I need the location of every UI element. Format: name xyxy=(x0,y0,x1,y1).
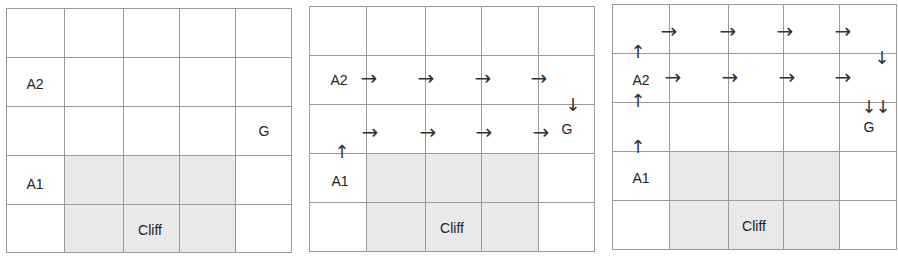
cliff-cell xyxy=(481,202,539,252)
cell xyxy=(309,6,367,56)
cell xyxy=(309,202,367,252)
cell xyxy=(64,106,124,156)
cell xyxy=(6,106,65,156)
cell xyxy=(839,200,897,250)
cell xyxy=(425,6,482,56)
panel-1: A2 G A1 Cliff xyxy=(6,8,292,253)
cliff-cell xyxy=(783,200,840,250)
cell xyxy=(64,8,124,58)
cell xyxy=(481,6,539,56)
cliff-cell xyxy=(366,153,426,203)
up-arrow-icon: ↑ xyxy=(630,43,645,61)
right-arrow-icon: → xyxy=(777,21,794,41)
cliff-label: Cliff xyxy=(138,222,162,238)
cliff-cell xyxy=(123,155,180,205)
cliff-cell xyxy=(425,153,482,203)
agent-a2-label: A2 xyxy=(330,72,347,88)
cell xyxy=(235,204,292,253)
cell xyxy=(179,106,236,156)
cliff-cell xyxy=(669,200,729,250)
cell xyxy=(235,155,292,205)
right-arrow-icon: → xyxy=(418,68,435,88)
agent-a2-label: A2 xyxy=(632,72,649,88)
cell xyxy=(123,106,180,156)
cliff-label: Cliff xyxy=(440,220,464,236)
cell xyxy=(6,8,65,58)
cell xyxy=(179,8,236,58)
cell xyxy=(783,102,840,152)
cell xyxy=(123,8,180,58)
up-arrow-icon: ↑ xyxy=(334,143,349,161)
agent-a2-label: A2 xyxy=(26,76,43,92)
right-arrow-icon: → xyxy=(362,122,379,142)
cliff-cell xyxy=(179,204,236,253)
goal-label: G xyxy=(864,119,875,135)
cell xyxy=(64,57,124,107)
cliff-cell xyxy=(64,155,124,205)
right-arrow-icon: → xyxy=(531,68,548,88)
cell xyxy=(728,4,784,54)
right-arrow-icon: → xyxy=(661,21,678,41)
cliff-cell xyxy=(179,155,236,205)
right-arrow-icon: → xyxy=(420,122,437,142)
cell xyxy=(235,8,292,58)
panel-2: A2 → → → → ↓ → → → → G ↑ A1 Cliff xyxy=(309,6,595,252)
right-arrow-icon: → xyxy=(476,122,493,142)
down-arrow-icon: ↓ xyxy=(565,96,580,114)
cell xyxy=(538,153,595,203)
right-arrow-icon: → xyxy=(665,67,682,87)
cell xyxy=(179,57,236,107)
cliff-cell xyxy=(366,202,426,252)
cell xyxy=(123,57,180,107)
cell xyxy=(839,151,897,201)
cell xyxy=(538,202,595,252)
right-arrow-icon: → xyxy=(475,68,492,88)
cliff-cell xyxy=(783,151,840,201)
cell xyxy=(235,57,292,107)
cliff-cell xyxy=(481,153,539,203)
cell xyxy=(366,6,426,56)
down-arrow-icon: ↓ xyxy=(874,49,889,67)
down-arrow-icon: ↓ xyxy=(861,98,876,116)
cliff-cell xyxy=(669,151,729,201)
right-arrow-icon: → xyxy=(533,122,550,142)
right-arrow-icon: → xyxy=(835,21,852,41)
up-arrow-icon: ↑ xyxy=(630,92,645,110)
up-arrow-icon: ↑ xyxy=(630,138,645,156)
right-arrow-icon: → xyxy=(720,21,737,41)
panel-3: → → → → ↑ ↓ A2 → → → → ↑ ↓ ↓ G ↑ A1 Clif… xyxy=(612,4,897,250)
right-arrow-icon: → xyxy=(361,68,378,88)
cliff-cell xyxy=(64,204,124,253)
agent-a1-label: A1 xyxy=(26,176,43,192)
cell xyxy=(538,6,595,56)
cell xyxy=(728,102,784,152)
cell xyxy=(6,204,65,253)
cliff-label: Cliff xyxy=(742,218,766,234)
cliff-cell xyxy=(728,151,784,201)
right-arrow-icon: → xyxy=(779,67,796,87)
agent-a1-label: A1 xyxy=(632,170,649,186)
goal-label: G xyxy=(562,121,573,137)
agent-a1-label: A1 xyxy=(331,173,348,189)
cell xyxy=(612,200,670,250)
cell xyxy=(669,102,729,152)
right-arrow-icon: → xyxy=(835,67,852,87)
down-arrow-icon: ↓ xyxy=(875,98,890,116)
right-arrow-icon: → xyxy=(722,67,739,87)
goal-label: G xyxy=(259,123,270,139)
